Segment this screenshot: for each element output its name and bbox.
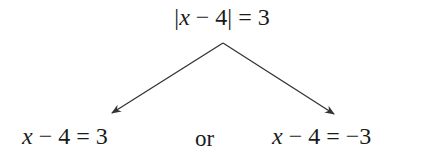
rhs-value: −3: [346, 123, 372, 149]
equals-sign: =: [70, 123, 96, 149]
arrow-left: [112, 43, 223, 113]
branch-right-equation: x−4=−3: [272, 124, 371, 148]
minus-sign: −: [33, 123, 59, 149]
number: 4: [308, 123, 320, 149]
arrow-right: [223, 43, 334, 114]
variable-x: x: [272, 123, 283, 149]
equals-sign: =: [320, 123, 346, 149]
rhs-value: 3: [96, 123, 108, 149]
number: 4: [58, 123, 70, 149]
or-connector: or: [195, 127, 214, 150]
branch-left-equation: x−4=3: [22, 124, 108, 148]
minus-sign: −: [283, 123, 309, 149]
variable-x: x: [22, 123, 33, 149]
